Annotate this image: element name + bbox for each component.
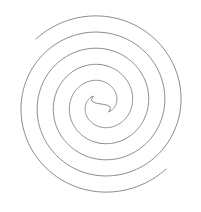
- spiral-center-s-curve: [91, 96, 110, 112]
- spiral-arm-b: [21, 32, 166, 192]
- spiral-arm-a: [36, 16, 181, 176]
- double-spiral-diagram: [0, 0, 201, 212]
